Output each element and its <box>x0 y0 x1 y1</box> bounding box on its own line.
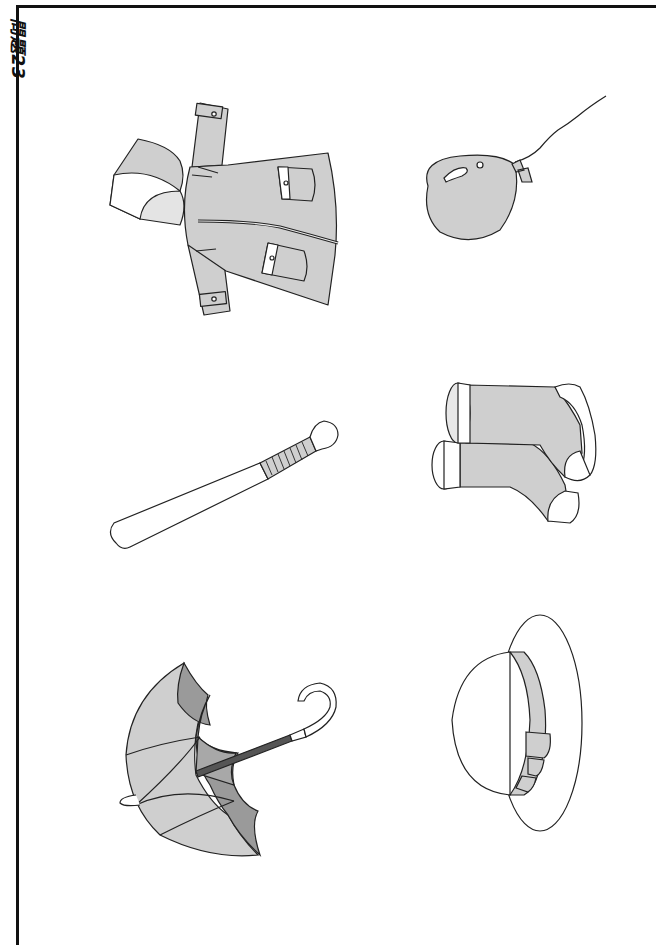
hat-icon <box>440 610 590 840</box>
balloon-picture[interactable]: balloon <box>400 90 620 250</box>
baseball-bat-picture[interactable]: baseball bat <box>100 405 345 555</box>
rain-boots-icon <box>430 375 605 535</box>
umbrella-icon <box>100 655 355 870</box>
raincoat-icon <box>100 95 345 320</box>
baseball-bat-icon <box>100 405 345 555</box>
hat-picture[interactable]: hat <box>440 610 590 840</box>
rain-boots-picture[interactable]: rain boots <box>430 375 605 535</box>
raincoat-picture[interactable]: raincoat <box>100 95 345 320</box>
balloon-icon <box>400 90 620 250</box>
umbrella-picture[interactable]: umbrella <box>100 655 355 870</box>
